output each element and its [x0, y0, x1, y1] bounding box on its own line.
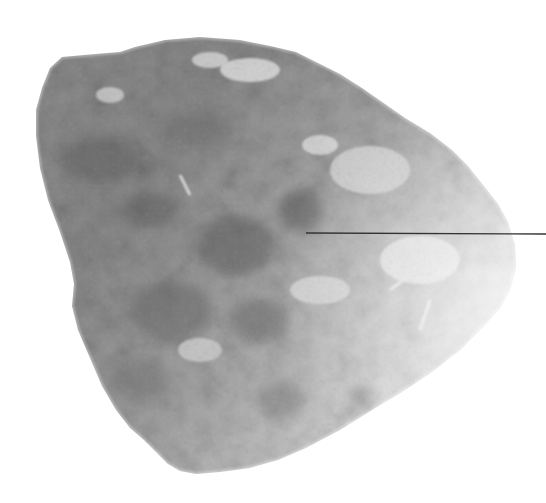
specimen-photo — [0, 0, 546, 503]
